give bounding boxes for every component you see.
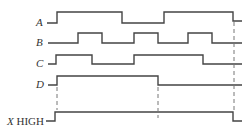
waveform-a	[47, 12, 242, 23]
signal-label-x-high: X HIGH	[6, 115, 44, 127]
waveform-d	[48, 76, 242, 85]
signal-label-high: HIGH	[14, 115, 44, 127]
signal-label-b: B	[36, 36, 43, 48]
waveform-c	[48, 55, 242, 64]
timing-diagram: A B C D X HIGH	[0, 0, 251, 133]
signal-label-c: C	[36, 57, 44, 69]
waveform-b	[48, 33, 242, 43]
signal-label-d: D	[35, 78, 44, 90]
signal-label-a: A	[35, 16, 43, 28]
waveform-x-high	[46, 112, 242, 121]
